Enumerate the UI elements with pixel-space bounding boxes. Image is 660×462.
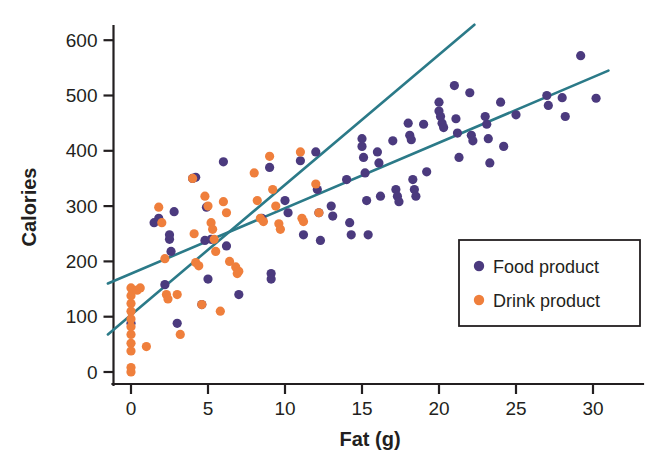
y-tick-label: 400 [66, 140, 98, 161]
data-point [373, 147, 382, 156]
plot-area: 0100200300400500600051015202530Fat (g)Ca… [0, 0, 660, 462]
data-point [357, 142, 366, 151]
data-point [374, 158, 383, 167]
data-point [211, 247, 220, 256]
data-point [544, 101, 553, 110]
x-tick-label: 15 [351, 398, 372, 419]
data-point [268, 185, 277, 194]
y-tick-label: 100 [66, 306, 98, 327]
data-point [219, 197, 228, 206]
data-point [591, 94, 600, 103]
data-point [481, 112, 490, 121]
data-point [439, 123, 448, 132]
data-point [216, 307, 225, 316]
legend-box [459, 240, 640, 326]
data-point [316, 236, 325, 245]
data-point [359, 153, 368, 162]
data-point [170, 207, 179, 216]
data-point [362, 196, 371, 205]
data-point [203, 202, 212, 211]
data-point [126, 339, 135, 348]
data-point [434, 98, 443, 107]
data-point [265, 163, 274, 172]
data-point [450, 81, 459, 90]
data-point [234, 290, 243, 299]
data-point [388, 136, 397, 145]
data-point [160, 280, 169, 289]
data-point [299, 230, 308, 239]
y-tick-label: 300 [66, 196, 98, 217]
data-point [219, 157, 228, 166]
data-point [311, 147, 320, 156]
data-point [222, 241, 231, 250]
data-point [142, 342, 151, 351]
data-point [200, 192, 209, 201]
data-point [342, 175, 351, 184]
data-point [271, 202, 280, 211]
data-point [299, 217, 308, 226]
data-point [419, 120, 428, 129]
data-point [465, 88, 474, 97]
data-point [163, 294, 172, 303]
data-point [511, 110, 520, 119]
x-tick-label: 25 [505, 398, 526, 419]
data-point [314, 208, 323, 217]
x-tick-label: 5 [203, 398, 214, 419]
legend-marker [474, 261, 484, 271]
data-point [558, 93, 567, 102]
data-point [311, 179, 320, 188]
x-axis-title: Fat (g) [339, 428, 400, 450]
data-point [283, 208, 292, 217]
data-point [203, 274, 212, 283]
data-point [165, 230, 174, 239]
data-point [422, 167, 431, 176]
data-point [190, 229, 199, 238]
y-tick-label: 600 [66, 30, 98, 51]
data-point [160, 254, 169, 263]
data-point [188, 174, 197, 183]
y-tick-label: 0 [87, 362, 98, 383]
x-tick-label: 10 [274, 398, 295, 419]
data-point [280, 196, 289, 205]
data-point [482, 120, 491, 129]
data-point [157, 218, 166, 227]
legend: Food productDrink product [459, 240, 640, 326]
data-point [173, 319, 182, 328]
data-point [561, 112, 570, 121]
legend-marker [474, 295, 484, 305]
data-point [166, 247, 175, 256]
data-point [347, 230, 356, 239]
data-point [136, 283, 145, 292]
data-point [411, 192, 420, 201]
x-tick-label: 20 [428, 398, 449, 419]
y-axis-title: Calories [18, 168, 40, 247]
data-point [394, 197, 403, 206]
data-point [576, 51, 585, 60]
data-point [407, 135, 416, 144]
y-tick-label: 200 [66, 251, 98, 272]
data-point [453, 129, 462, 138]
legend-label: Food product [493, 257, 599, 277]
data-point [364, 230, 373, 239]
data-point [454, 153, 463, 162]
data-point [253, 196, 262, 205]
data-point [176, 330, 185, 339]
data-point [345, 218, 354, 227]
data-point [376, 192, 385, 201]
data-point [154, 203, 163, 212]
data-point [126, 363, 135, 372]
data-point [276, 225, 285, 234]
data-point [485, 158, 494, 167]
data-point [210, 235, 219, 244]
data-point [499, 142, 508, 151]
data-point [484, 134, 493, 143]
data-point [194, 261, 203, 270]
data-point [250, 168, 259, 177]
data-point [222, 208, 231, 217]
data-point [265, 152, 274, 161]
legend-label: Drink product [493, 291, 600, 311]
data-point [360, 168, 369, 177]
data-point [208, 225, 217, 234]
data-point [296, 147, 305, 156]
data-point [259, 217, 268, 226]
